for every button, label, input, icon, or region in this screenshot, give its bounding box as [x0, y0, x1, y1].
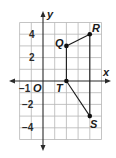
label-R: R	[92, 22, 100, 34]
coordinate-plane: y x O 4 2 −2 −4 −1 Q R T S	[0, 0, 116, 158]
label-T: T	[56, 82, 64, 94]
x-axis-right-arrow-icon	[105, 79, 111, 84]
y-axis-down-arrow-icon	[41, 145, 46, 151]
label-Q: Q	[55, 37, 64, 49]
tick-y-4: 4	[29, 29, 35, 40]
y-axis-label: y	[46, 8, 54, 20]
tick-y-neg2: −2	[22, 99, 34, 110]
tick-y-neg4: −4	[22, 122, 34, 133]
point-Q	[64, 44, 69, 49]
tick-x-neg1: −1	[19, 83, 31, 94]
label-S: S	[90, 118, 98, 130]
x-axis-label: x	[102, 66, 110, 78]
tick-y-2: 2	[29, 52, 35, 63]
x-axis-left-arrow-icon	[9, 79, 15, 84]
origin-label: O	[33, 82, 42, 94]
point-T	[64, 79, 69, 84]
y-axis-up-arrow-icon	[41, 11, 46, 17]
